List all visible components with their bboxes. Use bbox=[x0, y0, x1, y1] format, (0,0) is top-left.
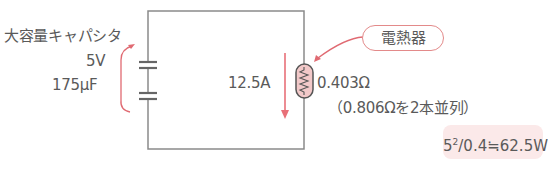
power-formula: 52/0.4≒62.5W bbox=[443, 125, 543, 159]
heater-callout: 電熱器 bbox=[362, 25, 444, 51]
capacitor-label: 大容量キャパシタ bbox=[4, 24, 122, 45]
current-arrow-icon bbox=[281, 53, 289, 119]
circuit-wires bbox=[148, 11, 304, 149]
heater-resistor-icon bbox=[296, 64, 313, 98]
formula-rest: /0.4≒62.5W bbox=[458, 137, 548, 155]
capacitor-capacitance: 175μF bbox=[52, 76, 97, 94]
charge-arrow-icon bbox=[121, 44, 135, 112]
capacitor-voltage: 5V bbox=[86, 52, 105, 70]
heater-resistance: 0.403Ω bbox=[317, 74, 370, 92]
heater-note: （0.806Ωを2本並列） bbox=[328, 96, 478, 117]
formula-base: 5 bbox=[443, 137, 453, 155]
current-value: 12.5A bbox=[228, 74, 270, 92]
callout-leader-icon bbox=[314, 37, 363, 62]
